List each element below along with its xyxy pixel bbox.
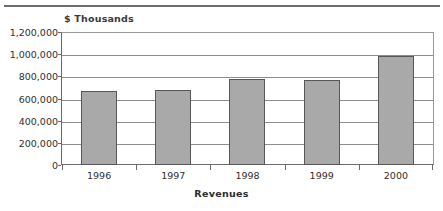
bar-slot bbox=[62, 32, 136, 165]
y-axis-tick-label: 1,000,000 bbox=[2, 49, 58, 60]
x-axis-tick-label-1996: 1996 bbox=[87, 170, 111, 181]
bar-slot bbox=[359, 32, 433, 165]
y-axis-tick-label: 0 bbox=[2, 160, 58, 171]
bar-slot bbox=[210, 32, 284, 165]
y-axis-tick-mark bbox=[58, 165, 61, 166]
x-axis-tick-label-1999: 1999 bbox=[310, 170, 334, 181]
x-axis-title: Revenues bbox=[0, 188, 443, 199]
x-axis-tick-label-1998: 1998 bbox=[235, 170, 259, 181]
bar-1996[interactable] bbox=[81, 91, 117, 165]
bar-slot bbox=[285, 32, 359, 165]
x-axis-tick-label-1997: 1997 bbox=[161, 170, 185, 181]
bar-1998[interactable] bbox=[229, 79, 265, 165]
bar-slot bbox=[136, 32, 210, 165]
x-axis-tick-labels: 19961997199819992000 bbox=[62, 170, 433, 184]
y-axis-tick-label: 1,200,000 bbox=[2, 27, 58, 38]
bar-1997[interactable] bbox=[155, 90, 191, 165]
y-axis-tick-label: 600,000 bbox=[2, 93, 58, 104]
header-divider-rule bbox=[4, 5, 440, 7]
bar-1999[interactable] bbox=[304, 80, 340, 165]
bars-layer bbox=[62, 32, 433, 165]
x-axis-tick-label-2000: 2000 bbox=[384, 170, 408, 181]
revenues-bar-chart-figure: $ Thousands 0200,000400,000600,000800,00… bbox=[0, 0, 443, 211]
y-axis-unit-caption: $ Thousands bbox=[64, 13, 134, 24]
y-axis-tick-label: 400,000 bbox=[2, 115, 58, 126]
bar-2000[interactable] bbox=[378, 56, 414, 165]
y-axis-tick-label: 200,000 bbox=[2, 137, 58, 148]
y-axis-tick-labels: 0200,000400,000600,000800,0001,000,0001,… bbox=[0, 32, 58, 165]
y-axis-tick-label: 800,000 bbox=[2, 71, 58, 82]
